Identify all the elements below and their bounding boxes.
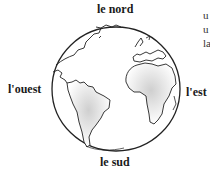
label-south: le sud — [100, 156, 130, 168]
label-north: le nord — [97, 3, 133, 15]
side-text-line: u — [203, 22, 210, 36]
truncated-side-text: u u la — [203, 8, 210, 50]
side-text-line: la — [203, 36, 210, 50]
label-west: l'ouest — [8, 83, 41, 95]
label-east: l'est — [186, 86, 207, 98]
side-text-line: u — [203, 8, 210, 22]
